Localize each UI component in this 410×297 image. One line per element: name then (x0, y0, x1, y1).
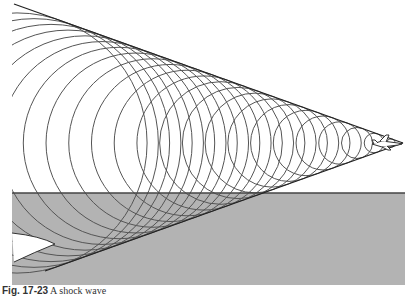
wavefront-circle (205, 93, 305, 193)
caption-text: A shock wave (50, 285, 106, 296)
wavefront-circle (228, 99, 316, 187)
wavefront-circle (341, 127, 372, 158)
wavefront-circle (273, 110, 338, 175)
cone-upper-edge (14, 4, 403, 143)
caption-label: Fig. 17-23 (2, 285, 48, 296)
wavefront-circle (319, 122, 361, 164)
jet-aircraft-icon (372, 135, 402, 150)
figure-caption: Fig. 17-23 A shock wave (2, 285, 106, 297)
